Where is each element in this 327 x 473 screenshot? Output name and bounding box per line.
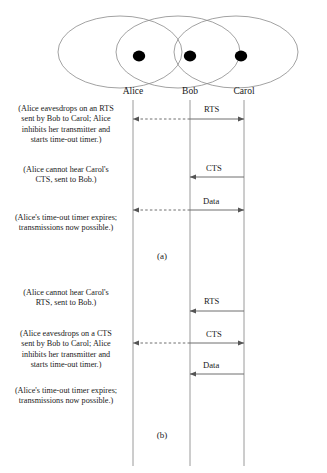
message-label-a-rts: RTS (204, 104, 219, 114)
message-label-a-data: Data (203, 196, 219, 206)
note-b-2: (Alice eavesdrops on a CTS sent by Bob t… (2, 329, 130, 371)
message-label-a-cts: CTS (206, 163, 222, 173)
note-a-3: (Alice's time-out timer expires; transmi… (2, 213, 130, 234)
figure-caption-b: (b) (142, 430, 182, 440)
message-label-b-rts: RTS (204, 296, 219, 306)
figure-caption-a: (a) (142, 251, 182, 261)
message-label-b-cts: CTS (206, 329, 222, 339)
message-label-b-data: Data (203, 360, 219, 370)
note-b-1: (Alice cannot hear Carol's RTS, sent to … (2, 288, 130, 309)
maca-protocol-diagram: Alice Bob Carol (0, 0, 327, 473)
note-b-3: (Alice's time-out timer expires; transmi… (2, 386, 130, 407)
note-a-2: (Alice cannot hear Carol's CTS, sent to … (2, 165, 130, 186)
note-a-1: (Alice eavesdrops on an RTS sent by Bob … (2, 104, 130, 146)
